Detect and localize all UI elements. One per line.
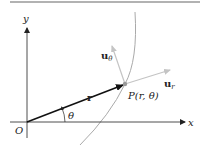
position-vector-label: r xyxy=(87,92,93,103)
origin-label: O xyxy=(15,125,23,136)
position-vector xyxy=(27,85,123,122)
point-label: P(r, θ) xyxy=(127,90,159,101)
unit-angular-label-main: u xyxy=(101,50,108,61)
unit-angular-vector xyxy=(112,46,125,84)
y-axis-label: y xyxy=(22,13,29,24)
polar-diagram: y x O r θ P(r, θ) ur uθ xyxy=(0,0,202,153)
unit-angular-label-sub: θ xyxy=(108,55,113,63)
point-p xyxy=(123,82,127,86)
angle-arc xyxy=(62,108,65,122)
polar-curve xyxy=(80,12,136,145)
unit-radial-label: ur xyxy=(164,78,175,91)
x-axis-label: x xyxy=(188,117,194,128)
angle-label: θ xyxy=(68,110,74,121)
unit-radial-label-sub: r xyxy=(171,83,175,91)
unit-radial-label-main: u xyxy=(164,78,171,89)
unit-angular-label: uθ xyxy=(101,50,113,63)
